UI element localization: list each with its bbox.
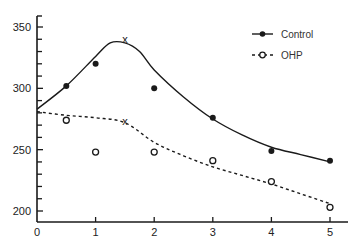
ohp-point: [93, 149, 99, 155]
control-point: [63, 83, 69, 89]
x-tick-label: 3: [210, 226, 216, 238]
x-tick-label: 2: [151, 226, 157, 238]
x-tick-label: 5: [327, 226, 333, 238]
ohp-point: [63, 117, 69, 123]
control-point: [327, 158, 333, 164]
y-tick-label: 250: [13, 144, 31, 156]
legend-ohp-marker: [260, 52, 266, 58]
ohp-point: [210, 158, 216, 164]
ohp-point: [268, 179, 274, 185]
legend: ControlOHP: [252, 29, 313, 61]
control-point: [268, 148, 274, 154]
ohp-x-marker: x: [122, 115, 128, 127]
ohp-point: [327, 204, 333, 210]
control-x-marker: x: [122, 33, 128, 45]
control-point: [210, 115, 216, 121]
x-tick-label: 1: [93, 226, 99, 238]
x-tick-label: 0: [34, 226, 40, 238]
y-tick-label: 300: [13, 82, 31, 94]
control-point: [93, 61, 99, 67]
legend-control-marker: [260, 31, 266, 37]
y-tick-label: 200: [13, 205, 31, 217]
x-tick-label: 4: [268, 226, 274, 238]
control-point: [151, 85, 157, 91]
fit-curves: [37, 42, 330, 204]
ohp-curve: [37, 112, 330, 204]
legend-ohp-label: OHP: [281, 50, 303, 61]
chart: 200250300350012345 xx ControlOHP: [0, 0, 358, 251]
y-tick-label: 350: [13, 21, 31, 33]
ohp-point: [151, 149, 157, 155]
legend-control-label: Control: [281, 29, 313, 40]
